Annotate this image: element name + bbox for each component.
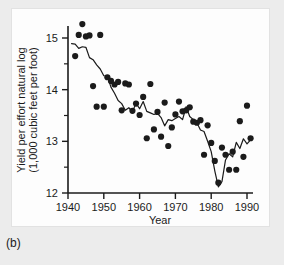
x-tick-label: 1990 <box>235 201 259 213</box>
data-point <box>165 143 171 149</box>
data-point <box>101 104 107 110</box>
x-tick-label: 1950 <box>92 201 116 213</box>
data-point <box>208 140 214 146</box>
data-point <box>133 101 139 107</box>
data-point <box>126 81 132 87</box>
data-points <box>72 21 254 186</box>
y-tick-label: 13 <box>46 135 58 147</box>
x-tick-label: 1970 <box>163 201 187 213</box>
data-point <box>158 134 164 140</box>
data-point <box>212 158 218 164</box>
data-point <box>90 83 96 89</box>
x-tick-label: 1980 <box>199 201 223 213</box>
data-point <box>244 103 250 109</box>
data-point <box>140 94 146 100</box>
data-point <box>79 21 85 27</box>
y-axis-title-line2: (1,000 cubic feet per foot) <box>27 47 39 172</box>
data-point <box>237 118 243 124</box>
data-point <box>115 79 121 85</box>
x-axis-title: Year <box>149 214 172 226</box>
data-point <box>162 99 168 105</box>
data-point <box>97 32 103 38</box>
x-tick-label: 1940 <box>56 201 80 213</box>
data-point <box>176 98 182 104</box>
data-point <box>144 135 150 141</box>
data-point <box>169 124 175 130</box>
data-point <box>201 152 207 158</box>
trend-line <box>72 44 251 187</box>
trend-polyline <box>72 44 251 187</box>
y-tick-label: 14 <box>46 84 58 96</box>
data-point <box>197 117 203 123</box>
data-point <box>222 152 228 158</box>
figure-panel-b: 12131415 194019501960197019801990 Year Y… <box>0 0 284 265</box>
data-point <box>119 107 125 113</box>
data-point <box>247 135 253 141</box>
x-axis-ticks: 194019501960197019801990 <box>56 193 259 213</box>
y-axis-title-line1: Yield per effort natural log <box>15 47 27 172</box>
data-point <box>187 104 193 110</box>
data-point <box>137 112 143 118</box>
data-point <box>233 167 239 173</box>
data-point <box>154 109 160 115</box>
data-point <box>94 104 100 110</box>
data-point <box>205 122 211 128</box>
data-point <box>76 32 82 38</box>
data-point <box>215 180 221 186</box>
data-point <box>172 111 178 117</box>
y-axis-ticks: 12131415 <box>46 32 68 199</box>
data-point <box>129 108 135 114</box>
y-tick-label: 12 <box>46 187 58 199</box>
data-point <box>230 149 236 155</box>
figure-caption: (b) <box>6 236 21 250</box>
scatter-chart: 12131415 194019501960197019801990 Year Y… <box>0 0 284 265</box>
data-point <box>226 167 232 173</box>
data-point <box>86 32 92 38</box>
data-point <box>147 81 153 87</box>
data-point <box>219 144 225 150</box>
data-point <box>72 53 78 59</box>
data-point <box>151 126 157 132</box>
data-point <box>240 154 246 160</box>
y-tick-label: 15 <box>46 32 58 44</box>
x-tick-label: 1960 <box>127 201 151 213</box>
